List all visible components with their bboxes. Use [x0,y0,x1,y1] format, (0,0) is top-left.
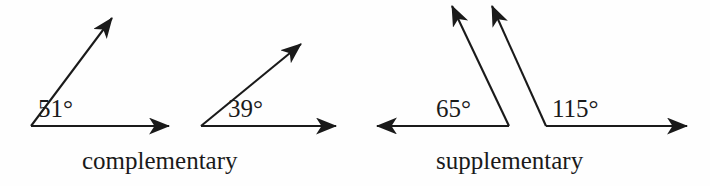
angle-label-65: 65° [436,96,471,121]
angle-label-39: 39° [228,96,263,121]
caption-supplementary: supplementary [436,148,583,173]
caption-complementary: complementary [82,148,238,173]
angle-label-51: 51° [38,96,73,121]
angles-figure: 51° 39° 65° 115° complementary supplemen… [0,0,710,186]
angle-label-115: 115° [552,96,599,121]
angle-39-rays [201,44,336,126]
